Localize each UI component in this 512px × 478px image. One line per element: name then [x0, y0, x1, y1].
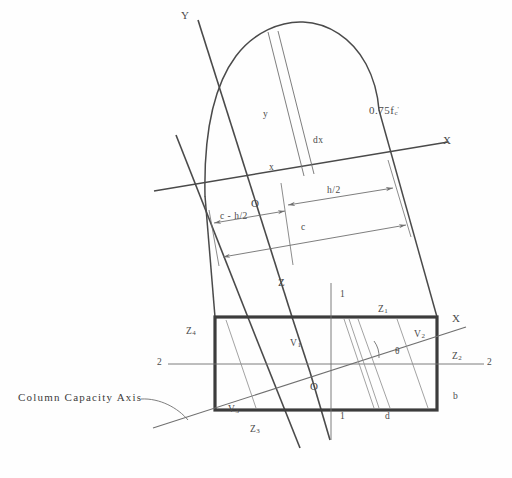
- section-width-label-b: b: [453, 392, 458, 402]
- volume-label-v2: V2: [414, 330, 425, 340]
- stress-block-edge-right: [379, 110, 437, 317]
- volume-label-v3: V3: [228, 405, 239, 415]
- volume-1-index: 1: [297, 341, 301, 349]
- origin-label-upper: O: [251, 198, 259, 209]
- dimension-line-c: [223, 225, 406, 257]
- label-resultant-z: Z: [278, 277, 285, 288]
- section-marker-top-1: 1: [340, 290, 345, 300]
- zone-label-z2: Z2: [452, 352, 462, 362]
- section-marker-right-2: 2: [487, 358, 492, 368]
- angle-label-theta: θ: [395, 347, 400, 357]
- zone-4-index: 4: [192, 329, 196, 337]
- section-outline: [215, 317, 437, 410]
- dimension-label-c-minus-h-half: c - h/2: [220, 212, 248, 222]
- label-ordinate-y: y: [263, 110, 268, 120]
- volume-2-index: 2: [421, 332, 425, 340]
- volume-label-v1: V1: [290, 339, 301, 349]
- section-depth-label-d: d: [385, 412, 390, 422]
- axis-label-y-upper: Y: [181, 10, 189, 21]
- section-marker-left-2: 2: [157, 358, 162, 368]
- zone-1-index: 1: [384, 307, 388, 315]
- stress-label-075fc: 0.75fc': [369, 105, 399, 117]
- column-capacity-axis-caption: Column Capacity Axis: [18, 392, 142, 403]
- column-capacity-axis-leader: [141, 399, 188, 420]
- label-abscissa-x: x: [269, 163, 274, 173]
- origin-label-lower: O: [310, 381, 318, 392]
- axis-label-x-lower: X: [452, 313, 460, 324]
- zone-3-index: 3: [256, 427, 260, 435]
- dimension-label-c: c: [301, 223, 306, 233]
- engineering-diagram: Y X X 0.75fc' y x dx O h/2 c - h/2 c Z 1…: [0, 0, 512, 478]
- volume-3-index: 3: [235, 407, 239, 415]
- zone-label-z1: Z1: [378, 305, 388, 315]
- section-marker-bottom-1: 1: [340, 412, 345, 422]
- stress-value: 0.75f: [369, 104, 394, 116]
- figure-vector-layer: [0, 0, 512, 478]
- zone-label-z4: Z4: [186, 327, 196, 337]
- axis-label-x-upper: X: [443, 135, 451, 146]
- x-axis-upper-line: [154, 142, 448, 191]
- stress-block-curve: [205, 22, 379, 196]
- zone-label-z3: Z3: [250, 425, 260, 435]
- stress-prime: ': [398, 105, 399, 113]
- zone-2-index: 2: [458, 354, 462, 362]
- label-strip-dx: dx: [313, 136, 324, 146]
- dimension-label-h-half: h/2: [327, 186, 341, 196]
- strip-dx-lines: [268, 31, 314, 176]
- column-capacity-axis-line: [153, 327, 466, 428]
